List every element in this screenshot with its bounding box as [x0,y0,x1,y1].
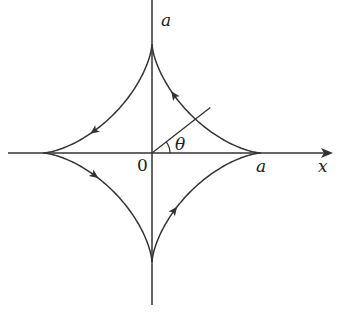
theta-label: θ [175,136,185,153]
origin-label: 0 [137,157,148,174]
top-a-label: a [161,12,171,29]
right-a-label: a [256,158,266,175]
angle-arc [166,142,170,153]
astroid-diagram [0,0,340,332]
x-axis-label: x [318,158,328,175]
